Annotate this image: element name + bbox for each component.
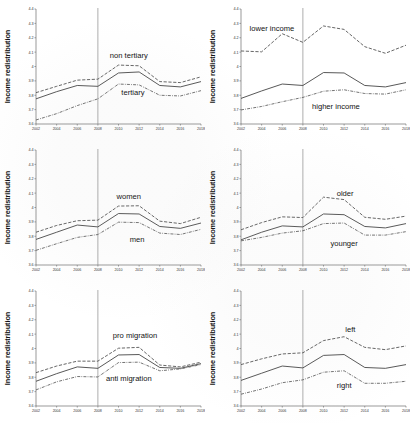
y-tick-label: 4 bbox=[237, 206, 239, 210]
series-line-men bbox=[36, 222, 201, 250]
series-line-overall bbox=[241, 73, 406, 99]
x-tick-label: 2010 bbox=[115, 127, 123, 131]
chart-panel-age: 3.63.73.83.944.14.24.34.4200220042006200… bbox=[205, 141, 410, 282]
x-tick-label: 2006 bbox=[73, 409, 81, 413]
x-tick-label: 2014 bbox=[156, 268, 164, 272]
y-tick-label: 3.9 bbox=[28, 361, 33, 365]
y-tick-label: 3.6 bbox=[233, 263, 238, 267]
x-tick-label: 2016 bbox=[381, 127, 389, 131]
x-tick-label: 2008 bbox=[299, 268, 307, 272]
chart-panel-education: 3.63.73.83.944.14.24.34.4200220042006200… bbox=[0, 0, 205, 141]
y-axis-title: Income redistribution bbox=[208, 170, 217, 244]
y-tick-label: 4 bbox=[237, 65, 239, 69]
y-axis-title: Income redistribution bbox=[208, 311, 217, 385]
x-tick-label: 2006 bbox=[73, 127, 81, 131]
y-tick-label: 4.2 bbox=[233, 177, 238, 181]
series-line-older bbox=[241, 197, 406, 230]
x-tick-label: 2018 bbox=[197, 409, 205, 413]
x-tick-label: 2016 bbox=[176, 409, 184, 413]
y-tick-label: 3.7 bbox=[233, 390, 238, 394]
x-tick-label: 2018 bbox=[402, 268, 410, 272]
x-tick-label: 2004 bbox=[258, 127, 266, 131]
x-tick-label: 2002 bbox=[237, 127, 245, 131]
y-tick-label: 4.4 bbox=[233, 289, 238, 293]
x-tick-label: 2010 bbox=[115, 268, 123, 272]
y-tick-label: 4.3 bbox=[233, 163, 238, 167]
x-tick-label: 2016 bbox=[176, 268, 184, 272]
y-tick-label: 4.3 bbox=[233, 304, 238, 308]
y-tick-label: 3.9 bbox=[233, 361, 238, 365]
y-tick-label: 3.8 bbox=[28, 376, 33, 380]
y-tick-label: 4.4 bbox=[233, 148, 238, 152]
y-tick-label: 4.4 bbox=[28, 289, 33, 293]
x-tick-label: 2004 bbox=[53, 409, 61, 413]
series-annotation-left: left bbox=[345, 325, 356, 334]
x-tick-label: 2012 bbox=[135, 268, 143, 272]
x-tick-label: 2010 bbox=[320, 268, 328, 272]
x-tick-label: 2012 bbox=[135, 127, 143, 131]
x-tick-label: 2018 bbox=[197, 268, 205, 272]
y-tick-label: 4.4 bbox=[233, 7, 238, 11]
series-line-overall bbox=[36, 214, 201, 240]
y-axis-title: Income redistribution bbox=[3, 29, 12, 103]
y-tick-label: 4.1 bbox=[233, 333, 238, 337]
chart-panel-migration: 3.63.73.83.944.14.24.34.4200220042006200… bbox=[0, 282, 205, 423]
x-tick-label: 2010 bbox=[115, 409, 123, 413]
x-tick-label: 2004 bbox=[53, 127, 61, 131]
y-tick-label: 3.6 bbox=[28, 263, 33, 267]
y-axis-title: Income redistribution bbox=[3, 311, 12, 385]
y-tick-label: 3.6 bbox=[28, 122, 33, 126]
series-annotation-right: right bbox=[337, 381, 353, 390]
y-tick-label: 3.9 bbox=[233, 79, 238, 83]
y-tick-label: 4.4 bbox=[28, 7, 33, 11]
y-tick-label: 4 bbox=[32, 65, 34, 69]
x-tick-label: 2002 bbox=[237, 268, 245, 272]
x-tick-label: 2008 bbox=[299, 127, 307, 131]
x-tick-label: 2018 bbox=[197, 127, 205, 131]
x-tick-label: 2010 bbox=[320, 127, 328, 131]
y-tick-label: 4.4 bbox=[28, 148, 33, 152]
x-tick-label: 2012 bbox=[135, 409, 143, 413]
y-axis-title: Income redistribution bbox=[208, 29, 217, 103]
series-annotation-older: older bbox=[337, 189, 354, 198]
y-tick-label: 4 bbox=[32, 347, 34, 351]
y-tick-label: 4.1 bbox=[233, 51, 238, 55]
y-tick-label: 4.2 bbox=[233, 36, 238, 40]
x-tick-label: 2016 bbox=[381, 268, 389, 272]
y-tick-label: 3.7 bbox=[28, 390, 33, 394]
y-tick-label: 3.7 bbox=[28, 108, 33, 112]
x-tick-label: 2008 bbox=[94, 268, 102, 272]
series-line-left bbox=[241, 337, 406, 365]
x-tick-label: 2006 bbox=[73, 268, 81, 272]
y-tick-label: 4.2 bbox=[28, 36, 33, 40]
x-tick-label: 2008 bbox=[94, 409, 102, 413]
y-tick-label: 4.1 bbox=[233, 192, 238, 196]
y-tick-label: 3.6 bbox=[233, 404, 238, 408]
x-tick-label: 2006 bbox=[278, 127, 286, 131]
y-tick-label: 3.9 bbox=[28, 220, 33, 224]
y-tick-label: 3.9 bbox=[28, 79, 33, 83]
x-tick-label: 2004 bbox=[53, 268, 61, 272]
y-tick-label: 4.3 bbox=[233, 22, 238, 26]
series-line-younger bbox=[241, 223, 406, 241]
x-tick-label: 2006 bbox=[278, 268, 286, 272]
series-line-tertiary bbox=[36, 84, 201, 120]
series-line-right bbox=[241, 371, 406, 394]
series-annotation-anti-migration: anti migration bbox=[106, 374, 152, 383]
series-annotation-non-tertiary: non tertiary bbox=[110, 51, 148, 60]
x-tick-label: 2014 bbox=[156, 409, 164, 413]
y-tick-label: 3.7 bbox=[233, 108, 238, 112]
x-tick-label: 2006 bbox=[278, 409, 286, 413]
x-tick-label: 2004 bbox=[258, 409, 266, 413]
x-tick-label: 2012 bbox=[340, 127, 348, 131]
y-tick-label: 4 bbox=[32, 206, 34, 210]
x-tick-label: 2014 bbox=[156, 127, 164, 131]
series-annotation-tertiary: tertiary bbox=[121, 88, 144, 97]
y-tick-label: 3.8 bbox=[28, 94, 33, 98]
series-line-non-tertiary bbox=[36, 65, 201, 93]
x-tick-label: 2010 bbox=[320, 409, 328, 413]
x-tick-label: 2018 bbox=[402, 127, 410, 131]
series-annotation-men: men bbox=[130, 235, 145, 244]
x-tick-label: 2004 bbox=[258, 268, 266, 272]
chart-panel-political-orientation: 3.63.73.83.944.14.24.34.4200220042006200… bbox=[205, 282, 410, 423]
